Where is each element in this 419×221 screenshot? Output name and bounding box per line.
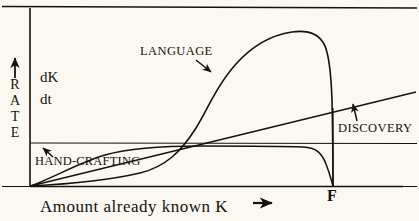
- y-axis-label: R A T E: [6, 77, 24, 141]
- language-arrow-icon: [196, 60, 211, 72]
- x-axis-tick-label-f: F: [327, 188, 337, 204]
- y-axis-label-char-3: E: [6, 125, 24, 141]
- mid-rule: [30, 143, 417, 144]
- top-rule: [2, 7, 417, 9]
- y-axis-label-char-2: T: [6, 109, 24, 125]
- annotation-discovery: DISCOVERY: [338, 122, 412, 135]
- series-discovery-line: [31, 92, 417, 186]
- x-axis-label: Amount already known K: [40, 198, 228, 215]
- annotation-hand-crafting: HAND-CRAFTING: [35, 155, 140, 168]
- y-axis-label-char-0: R: [6, 77, 24, 93]
- y-axis-quantity-numerator: dK: [40, 70, 58, 85]
- annotation-language: LANGUAGE: [140, 45, 213, 58]
- figure-container: LANGUAGE DISCOVERY HAND-CRAFTING Amount …: [0, 0, 419, 221]
- chart-plot-area: [0, 0, 419, 221]
- y-axis-label-char-1: A: [6, 93, 24, 109]
- y-axis-quantity-denominator: dt: [40, 92, 52, 107]
